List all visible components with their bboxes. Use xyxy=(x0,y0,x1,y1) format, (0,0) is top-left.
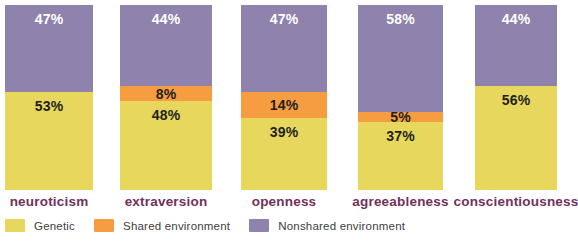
segment-shared-environment: 5% xyxy=(358,112,443,121)
category-label-extraversion: extraversion xyxy=(125,194,208,209)
legend-item-shared-environment: Shared environment xyxy=(94,219,230,232)
bar-neuroticism: 47%53% xyxy=(5,5,93,190)
legend-item-nonshared-environment: Nonshared environment xyxy=(249,219,405,232)
segment-genetic: 53% xyxy=(5,92,93,190)
value-label: 58% xyxy=(358,12,443,26)
value-label: 39% xyxy=(241,125,327,139)
category-label-neuroticism: neuroticism xyxy=(10,194,89,209)
category-label-agreeableness: agreeableness xyxy=(352,194,448,209)
value-label: 47% xyxy=(241,12,327,26)
category-label-openness: openness xyxy=(252,194,317,209)
value-label: 53% xyxy=(5,99,93,113)
legend-label-shared-environment: Shared environment xyxy=(123,220,230,232)
legend-swatch-shared-environment xyxy=(94,219,114,232)
segment-genetic: 48% xyxy=(120,101,212,190)
segment-genetic: 56% xyxy=(475,86,557,190)
segment-nonshared-environment: 58% xyxy=(358,5,443,112)
stacked-bar: 47%53% xyxy=(5,5,93,190)
legend-swatch-genetic xyxy=(5,219,25,232)
bar-agreeableness: 58%5%37% xyxy=(358,5,443,190)
value-label: 44% xyxy=(120,12,212,26)
bar-extraversion: 44%8%48% xyxy=(120,5,212,190)
legend-label-genetic: Genetic xyxy=(34,220,75,232)
segment-nonshared-environment: 44% xyxy=(475,5,557,86)
segment-nonshared-environment: 47% xyxy=(5,5,93,92)
stacked-bar: 44%8%48% xyxy=(120,5,212,190)
segment-nonshared-environment: 44% xyxy=(120,5,212,86)
value-label: 44% xyxy=(475,12,557,26)
legend-item-genetic: Genetic xyxy=(5,219,75,232)
stacked-bar: 58%5%37% xyxy=(358,5,443,190)
value-label: 56% xyxy=(475,93,557,107)
value-label: 37% xyxy=(358,129,443,143)
value-label: 47% xyxy=(5,12,93,26)
bar-openness: 47%14%39% xyxy=(241,5,327,190)
segment-nonshared-environment: 47% xyxy=(241,5,327,92)
bar-conscientiousness: 44%56% xyxy=(475,5,557,190)
value-label: 14% xyxy=(241,98,327,112)
category-label-conscientiousness: conscientiousness xyxy=(454,194,578,209)
personality-heritability-chart: 47%53%neuroticism44%8%48%extraversion47%… xyxy=(0,0,578,241)
segment-shared-environment: 8% xyxy=(120,86,212,101)
stacked-bar: 44%56% xyxy=(475,5,557,190)
segment-genetic: 39% xyxy=(241,118,327,190)
chart-legend: Genetic Shared environment Nonshared env… xyxy=(5,219,405,232)
value-label: 8% xyxy=(120,87,212,101)
segment-shared-environment: 14% xyxy=(241,92,327,118)
value-label: 48% xyxy=(120,108,212,122)
legend-label-nonshared-environment: Nonshared environment xyxy=(278,220,405,232)
stacked-bar: 47%14%39% xyxy=(241,5,327,190)
legend-swatch-nonshared-environment xyxy=(249,219,269,232)
segment-genetic: 37% xyxy=(358,122,443,190)
